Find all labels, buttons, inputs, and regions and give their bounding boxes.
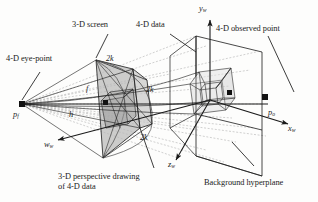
label-eye-point: 4-D eye-point [6, 54, 52, 63]
observed-point-marker [262, 94, 268, 100]
world-axes [58, 20, 288, 160]
leader-observed-point [268, 36, 294, 92]
symbol-half-extent-2: 2k [146, 86, 153, 95]
axis-label-y: yw [199, 4, 206, 13]
leader-data [170, 34, 196, 52]
label-perspective-drawing-line1: 3-D perspective drawing [58, 172, 140, 182]
leader-hyperplane [232, 142, 254, 166]
label-observed-point: 4-D observed point [216, 24, 280, 33]
symbol-eye-point: pf [13, 110, 19, 119]
data-point-marker [227, 90, 232, 95]
eye-point-marker [19, 101, 25, 107]
axis-label-x: xw [288, 124, 295, 133]
label-three-d-screen: 3-D screen [72, 20, 108, 29]
label-background-hyperplane: Background hyperplane [204, 178, 283, 187]
leader-eye-point [22, 72, 40, 100]
symbol-focal-distance: f [86, 84, 88, 93]
axis-label-w: ww [44, 140, 53, 149]
symbol-observed-point: po [268, 108, 275, 117]
figure-4d-perspective-projection: 4-D eye-point 3-D screen 4-D data 4-D ob… [0, 0, 318, 202]
label-four-d-data: 4-D data [136, 20, 165, 29]
z-axis-line [176, 100, 210, 160]
symbol-hyperplane-distance: h [69, 110, 73, 119]
axis-label-z: zw [168, 160, 175, 169]
symbol-half-extent-3: 2k [140, 134, 147, 143]
symbol-half-extent-1: 2k [106, 55, 113, 64]
label-perspective-drawing: 3-D perspective drawing of 4-D data [58, 172, 140, 192]
label-perspective-drawing-line2: of 4-D data [58, 182, 140, 192]
